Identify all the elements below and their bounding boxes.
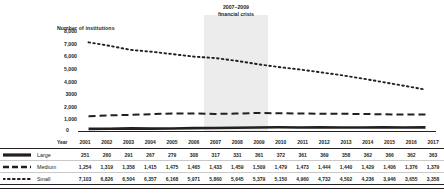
y-axis-tick-2000: 2,000	[64, 104, 77, 110]
y-axis-tick-1000: 1,000	[64, 116, 77, 122]
table-cell: 4,236	[357, 173, 379, 185]
table-header-row: Year200120022003200420052006200720082009…	[0, 136, 444, 149]
table-cell: 1,473	[292, 161, 314, 173]
recession-annotation-line1: 2007–2009	[196, 4, 276, 11]
table-cell: 3,655	[400, 173, 422, 185]
table-col-header-2001: 2001	[74, 136, 96, 149]
table-cell: 260	[96, 149, 118, 161]
legend-label: Small	[37, 176, 50, 182]
table-cell: 366	[379, 149, 401, 161]
table-cell: 291	[118, 149, 140, 161]
table-cell: 1,475	[161, 161, 183, 173]
table-cell: 5,150	[270, 173, 292, 185]
table-col-header-2017: 2017	[422, 136, 444, 149]
y-axis-tick-8000: 8,000	[64, 28, 77, 34]
table-cell: 7,103	[74, 173, 96, 185]
table-col-header-2005: 2005	[161, 136, 183, 149]
table-cell: 1,459	[226, 161, 248, 173]
table-cell: 1,358	[118, 161, 140, 173]
recession-annotation-line2: financial crisis	[196, 11, 276, 18]
y-axis-tick-6000: 6,000	[64, 53, 77, 59]
table-cell: 1,376	[400, 161, 422, 173]
table-cell: 1,319	[96, 161, 118, 173]
table-cell: 372	[270, 149, 292, 161]
table-cell: 1,433	[205, 161, 227, 173]
table-cell: 362	[400, 149, 422, 161]
table-col-header-2012: 2012	[313, 136, 335, 149]
legend-label: Large	[37, 152, 51, 158]
table-cell: 1,440	[335, 161, 357, 173]
y-axis-zero-label: 0	[66, 127, 69, 133]
table-row: Medium1,2541,3191,3581,4151,4751,4651,43…	[0, 161, 444, 173]
legend-item-medium[interactable]: Medium	[0, 161, 74, 173]
table-col-header-2013: 2013	[335, 136, 357, 149]
table-cell: 6,504	[118, 173, 140, 185]
table-cell: 3,358	[422, 173, 444, 185]
table-col-header-2010: 2010	[270, 136, 292, 149]
legend-item-small[interactable]: Small	[0, 173, 74, 185]
series-line-large	[89, 127, 426, 129]
table-cell: 1,406	[379, 161, 401, 173]
table-cell: 267	[139, 149, 161, 161]
series-line-medium	[89, 113, 426, 116]
table-col-header-2003: 2003	[118, 136, 140, 149]
table-cell: 363	[422, 149, 444, 161]
table-cell: 5,860	[205, 173, 227, 185]
table-col-header-2008: 2008	[226, 136, 248, 149]
y-axis-tick-7000: 7,000	[64, 41, 77, 47]
table-cell: 331	[226, 149, 248, 161]
table-col-header-2016: 2016	[400, 136, 422, 149]
table-cell: 369	[313, 149, 335, 161]
table-col-header-2002: 2002	[96, 136, 118, 149]
y-axis-tick-5000: 5,000	[64, 66, 77, 72]
table-bottom-rule	[0, 185, 444, 189]
table-cell: 4,960	[292, 173, 314, 185]
table-cell: 6,168	[161, 173, 183, 185]
table-col-header-2007: 2007	[205, 136, 227, 149]
table-cell: 358	[335, 149, 357, 161]
series-line-small	[89, 42, 426, 89]
legend-item-large[interactable]: Large	[0, 149, 74, 161]
series-lines	[78, 31, 436, 132]
table-col-header-2006: 2006	[183, 136, 205, 149]
table-year-header: Year	[0, 136, 74, 149]
table-cell: 361	[248, 149, 270, 161]
table-cell: 5,971	[183, 173, 205, 185]
solid-line-marker	[3, 152, 31, 158]
table-col-header-2009: 2009	[248, 136, 270, 149]
series-plot	[78, 31, 436, 132]
table-cell: 6,357	[139, 173, 161, 185]
x-axis-line	[78, 131, 436, 132]
legend-label: Medium	[37, 164, 56, 170]
y-axis-tick-3000: 3000	[65, 91, 77, 97]
table-col-header-2011: 2011	[292, 136, 314, 149]
table-col-header-2014: 2014	[357, 136, 379, 149]
table-cell: 361	[292, 149, 314, 161]
table-row: Large25126029126727930831733136137236136…	[0, 149, 444, 161]
dotted-line-marker	[3, 176, 31, 182]
table-cell: 5,645	[226, 173, 248, 185]
dashed-line-marker	[3, 164, 31, 170]
table-cell: 1,479	[270, 161, 292, 173]
data-table-wrap: Year200120022003200420052006200720082009…	[0, 136, 444, 189]
table-cell: 362	[357, 149, 379, 161]
table-cell: 1,429	[357, 161, 379, 173]
chart-figure: Number of institutions 8,0007,0006,0005,…	[0, 0, 444, 195]
table-cell: 308	[183, 149, 205, 161]
chart-plot-area: Number of institutions 8,0007,0006,0005,…	[0, 0, 444, 136]
table-cell: 1,254	[74, 161, 96, 173]
table-col-header-2004: 2004	[139, 136, 161, 149]
table-bottom-rule-cell	[0, 185, 444, 189]
data-table: Year200120022003200420052006200720082009…	[0, 136, 444, 189]
y-axis-tick-4000: 4,000	[64, 79, 77, 85]
table-cell: 1,379	[422, 161, 444, 173]
table-cell: 1,444	[313, 161, 335, 173]
table-cell: 1,415	[139, 161, 161, 173]
table-cell: 4,502	[335, 173, 357, 185]
table-row: Small7,1036,8266,5046,3576,1685,9715,860…	[0, 173, 444, 185]
table-cell: 1,509	[248, 161, 270, 173]
y-axis-tick-labels: 8,0007,0006,0005,0004,00030002,0001,000	[55, 31, 77, 132]
table-col-header-2015: 2015	[379, 136, 401, 149]
table-cell: 1,465	[183, 161, 205, 173]
table-cell: 251	[74, 149, 96, 161]
